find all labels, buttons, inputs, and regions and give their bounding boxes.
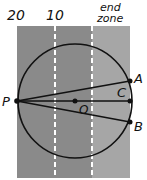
point-A [128,79,133,84]
label-O: O [79,103,88,117]
label-C: C [117,85,127,100]
label-B: B [134,119,143,134]
point-B [128,120,133,125]
field-diagram: 20 10 end zone P A C B O [0,0,147,180]
point-O [73,99,78,104]
point-C [128,99,133,104]
end-zone-label-line2: zone [96,12,123,25]
label-P: P [2,94,10,109]
label-A: A [133,71,143,86]
point-P [14,98,20,104]
yard-label-10: 10 [46,7,64,23]
yard-label-20: 20 [7,7,25,23]
